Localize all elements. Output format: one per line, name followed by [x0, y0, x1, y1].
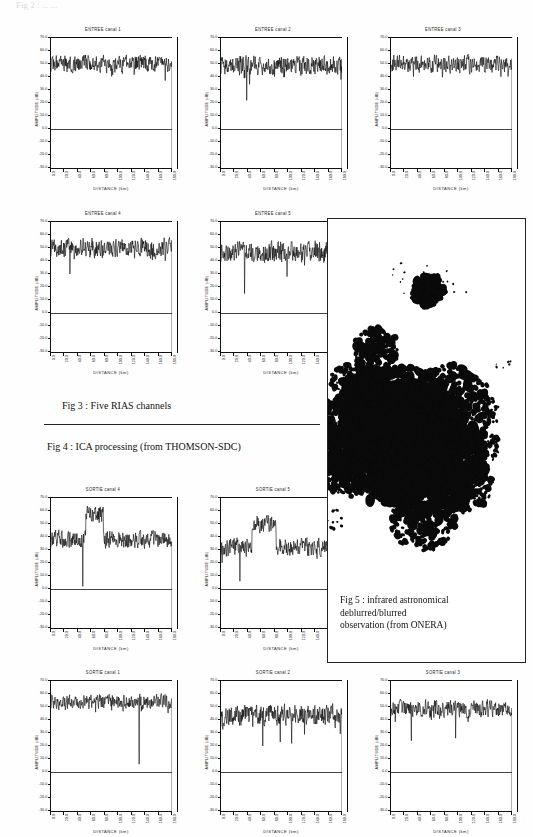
y-tick-mark: [388, 693, 390, 694]
chart-title: ENTREE canal 1: [28, 26, 178, 32]
y-tick-label: -30.0: [39, 625, 48, 629]
y-tick-label: -20.0: [39, 612, 48, 616]
x-tick-label: 60.0: [92, 814, 96, 821]
x-tick-mark: [220, 353, 221, 356]
x-tick-label: 40.0: [78, 814, 82, 821]
x-tick-label: 0.0: [222, 171, 226, 176]
x-tick-mark: [50, 812, 51, 815]
x-tick-label: 160.0: [329, 171, 333, 180]
plot-area: [220, 497, 342, 629]
y-tick-label: -20.0: [209, 336, 218, 340]
x-axis-label: DISTANCE (km): [390, 829, 512, 834]
y-tick-mark: [388, 732, 390, 733]
x-tick-label: 20.0: [65, 171, 69, 178]
y-tick-mark: [48, 588, 50, 589]
y-tick-mark: [388, 719, 390, 720]
y-tick-label: 0.0: [212, 310, 217, 314]
y-tick-mark: [218, 338, 220, 339]
x-tick-label: 40.0: [248, 171, 252, 178]
x-tick-label: 80.0: [445, 171, 449, 178]
section-divider: [44, 424, 320, 425]
y-tick-label: 10.0: [380, 113, 388, 117]
y-tick-label: 30.0: [380, 730, 388, 734]
y-tick-mark: [218, 797, 220, 798]
y-axis-ticks: 70.060.050.040.030.020.010.00.0-10.0-20.…: [368, 680, 390, 812]
y-tick-label: 60.0: [40, 508, 48, 512]
y-tick-label: -10.0: [209, 139, 218, 143]
y-tick-mark: [388, 102, 390, 103]
x-tick-label: 80.0: [105, 631, 109, 638]
x-tick-mark: [144, 353, 145, 356]
y-tick-mark: [388, 797, 390, 798]
y-tick-label: -10.0: [209, 782, 218, 786]
chart-sortie-2: SORTIE canal 2AMPLITUDE (dB)DISTANCE (km…: [198, 669, 348, 834]
signal-trace: [221, 681, 342, 811]
y-tick-mark: [48, 562, 50, 563]
y-tick-label: 50.0: [210, 521, 218, 525]
y-tick-label: 0.0: [212, 126, 217, 130]
y-tick-label: -20.0: [39, 152, 48, 156]
y-tick-mark: [48, 706, 50, 707]
x-tick-label: 40.0: [78, 171, 82, 178]
y-tick-label: 40.0: [40, 534, 48, 538]
y-tick-label: -20.0: [39, 336, 48, 340]
signal-trace: [221, 38, 342, 168]
x-tick-label: 120.0: [302, 355, 306, 364]
y-tick-mark: [218, 588, 220, 589]
y-tick-mark: [218, 312, 220, 313]
x-tick-label: 160.0: [159, 631, 163, 640]
y-tick-label: 20.0: [40, 743, 48, 747]
y-tick-label: 20.0: [210, 284, 218, 288]
signal-trace: [51, 222, 172, 352]
chart-entree-1: ENTREE canal 1AMPLITUDE (dB)DISTANCE (km…: [28, 26, 178, 191]
y-tick-label: -10.0: [39, 139, 48, 143]
x-axis-label: DISTANCE (km): [50, 646, 172, 651]
y-tick-mark: [48, 614, 50, 615]
x-tick-mark: [511, 812, 512, 815]
signal-trace: [221, 222, 342, 352]
y-axis-ticks: 70.060.050.040.030.020.010.00.0-10.0-20.…: [198, 680, 220, 812]
y-tick-label: 30.0: [210, 271, 218, 275]
y-tick-mark: [388, 154, 390, 155]
x-axis-label: DISTANCE (km): [50, 829, 172, 834]
x-tick-label: 60.0: [92, 171, 96, 178]
y-tick-label: 40.0: [40, 74, 48, 78]
y-tick-label: -30.0: [379, 808, 388, 812]
y-tick-mark: [218, 154, 220, 155]
x-tick-label: 140.0: [316, 171, 320, 180]
y-tick-mark: [48, 63, 50, 64]
y-tick-label: 40.0: [210, 258, 218, 262]
x-tick-label: 60.0: [432, 171, 436, 178]
y-tick-mark: [48, 784, 50, 785]
y-tick-mark: [48, 128, 50, 129]
y-tick-label: -20.0: [379, 152, 388, 156]
y-tick-label: 30.0: [40, 87, 48, 91]
x-tick-label: 100.0: [459, 171, 463, 180]
x-tick-label: 0.0: [222, 631, 226, 636]
y-tick-mark: [48, 732, 50, 733]
y-tick-mark: [218, 627, 220, 628]
y-tick-label: 0.0: [42, 769, 47, 773]
y-tick-mark: [388, 115, 390, 116]
y-tick-mark: [48, 37, 50, 38]
scanned-page: Fig 2 : ... ... ENTREE canal 1AMPLITUDE …: [0, 0, 533, 837]
y-axis-ticks: 70.060.050.040.030.020.010.00.0-10.0-20.…: [28, 680, 50, 812]
y-tick-label: -10.0: [209, 323, 218, 327]
y-tick-mark: [218, 286, 220, 287]
y-tick-mark: [48, 745, 50, 746]
y-tick-label: 10.0: [40, 297, 48, 301]
y-tick-label: 50.0: [40, 521, 48, 525]
y-tick-label: 40.0: [40, 258, 48, 262]
y-tick-label: 30.0: [40, 730, 48, 734]
x-tick-label: 140.0: [146, 631, 150, 640]
x-tick-label: 140.0: [146, 355, 150, 364]
y-tick-mark: [218, 37, 220, 38]
y-tick-mark: [388, 680, 390, 681]
x-tick-label: 40.0: [248, 631, 252, 638]
y-tick-label: -30.0: [209, 625, 218, 629]
y-tick-mark: [48, 680, 50, 681]
x-tick-mark: [144, 629, 145, 632]
y-tick-label: 60.0: [210, 691, 218, 695]
x-tick-mark: [50, 353, 51, 356]
y-tick-mark: [48, 286, 50, 287]
